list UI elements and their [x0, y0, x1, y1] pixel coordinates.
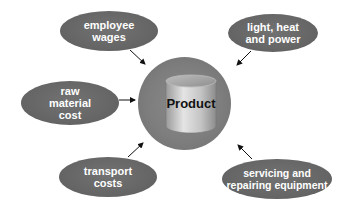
- arrow-icon: [128, 143, 143, 157]
- arrow-layer: [0, 0, 338, 207]
- arrow-icon: [238, 145, 252, 159]
- product-cost-diagram: Product employee wages light, heat and p…: [0, 0, 338, 207]
- arrow-icon: [237, 51, 251, 65]
- arrow-icon: [130, 50, 145, 64]
